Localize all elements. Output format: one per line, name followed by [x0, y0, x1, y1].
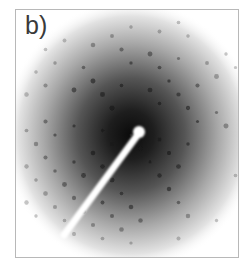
diffraction-spot [110, 34, 114, 38]
diffraction-spot [177, 21, 181, 25]
diffraction-spot [53, 205, 57, 209]
diffraction-spot [53, 169, 57, 173]
diffraction-spot [186, 214, 190, 218]
diffraction-spot [72, 88, 77, 93]
diffraction-spot [167, 187, 172, 192]
diffraction-spot [24, 164, 28, 168]
diffraction-spot [119, 227, 124, 232]
diffraction-spot [177, 201, 181, 205]
diffraction-spot [129, 241, 132, 244]
diffraction-spot [138, 218, 143, 223]
diffraction-spot [72, 124, 75, 127]
diffraction-spot [43, 191, 48, 196]
diffraction-spot [177, 237, 181, 241]
diffraction-spot [53, 61, 57, 65]
diffraction-spot [34, 70, 37, 73]
diffraction-spot [63, 39, 67, 43]
diffraction-spot [101, 129, 104, 132]
diffraction-spot [148, 160, 151, 163]
diffraction-spot [129, 205, 134, 210]
diffraction-pattern [16, 10, 239, 258]
diffraction-spot [196, 120, 199, 123]
diffraction-spot [176, 164, 181, 169]
diffraction-spot [186, 106, 190, 110]
diffraction-spot [148, 52, 153, 57]
diffraction-spot [157, 173, 161, 177]
diffraction-spot [186, 34, 189, 37]
beam-stop-tip [133, 126, 145, 138]
diffraction-spot [91, 79, 96, 84]
diffraction-spot [81, 173, 86, 178]
diffraction-spot [224, 52, 227, 55]
figure-panel: b) [15, 9, 239, 258]
diffraction-spot [100, 164, 105, 169]
diffraction-spot [91, 43, 96, 48]
diffraction-spot [215, 219, 218, 222]
diffraction-spot [120, 84, 123, 87]
diffraction-spot [101, 237, 105, 241]
diffraction-spot [195, 83, 199, 87]
diffraction-spot [25, 129, 29, 133]
diffraction-spot [101, 201, 105, 205]
diffraction-spot [24, 200, 28, 204]
diffraction-spot [110, 106, 115, 111]
diffraction-spot [120, 192, 124, 196]
diffraction-spot [139, 147, 143, 151]
diffraction-spot [63, 219, 66, 222]
diffraction-spot [119, 47, 123, 51]
diffraction-spot [234, 174, 238, 178]
diffraction-spot [34, 214, 37, 217]
diffraction-spot [110, 178, 115, 183]
diffraction-spot [205, 61, 209, 65]
diffraction-spot [158, 138, 162, 142]
diffraction-spot [53, 133, 56, 136]
diffraction-spot [100, 92, 105, 97]
diffraction-spot [158, 102, 161, 105]
diffraction-spot [129, 25, 132, 28]
central-halo [16, 10, 239, 258]
diffraction-spot [62, 182, 67, 187]
diffraction-spot [167, 79, 171, 83]
diffraction-spot [186, 142, 189, 145]
diffraction-spot [82, 66, 86, 70]
diffraction-spot [234, 66, 237, 69]
diffraction-spot [34, 142, 38, 146]
diffraction-spot [91, 223, 95, 227]
diffraction-spot [34, 178, 37, 181]
diffraction-spot [72, 196, 76, 200]
diffraction-spot [72, 160, 75, 163]
diffraction-spot [148, 88, 153, 93]
diffraction-spot [72, 232, 76, 236]
diffraction-spot [158, 66, 162, 70]
diffraction-spot [43, 119, 47, 123]
diffraction-spot [91, 151, 96, 156]
diffraction-spot [129, 61, 132, 64]
diffraction-spot [224, 124, 229, 129]
diffraction-spot [158, 30, 162, 34]
diffraction-spot [177, 57, 180, 60]
diffraction-spot [43, 83, 47, 87]
diffraction-spot [110, 214, 114, 218]
diffraction-spot [167, 151, 171, 155]
diffraction-spot [214, 74, 219, 79]
diffraction-spot [215, 111, 218, 114]
diffraction-spot [43, 155, 47, 159]
diffraction-spot [129, 133, 132, 136]
diffraction-spot [176, 92, 180, 96]
diffraction-spot [110, 142, 113, 145]
diffraction-spot [24, 92, 28, 96]
panel-label: b) [25, 13, 47, 38]
diffraction-spot [44, 48, 48, 52]
